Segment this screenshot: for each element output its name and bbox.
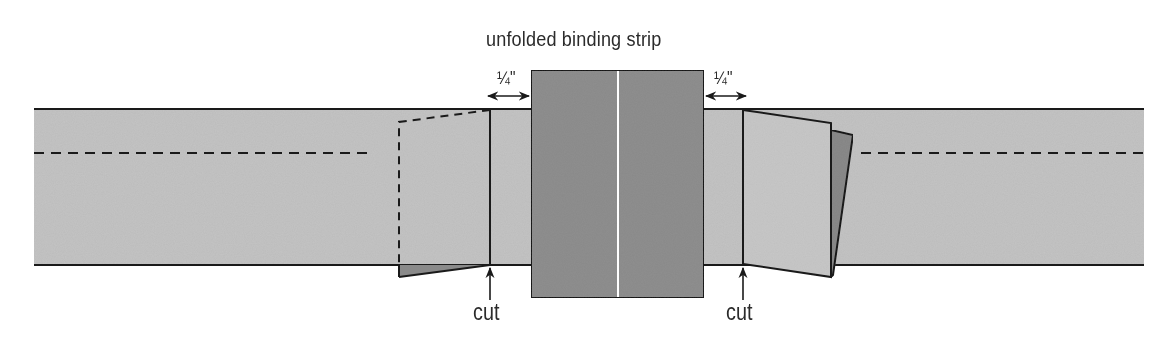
measurement-label-right: ¼" [714,68,732,89]
cut-label-right: cut [726,299,752,326]
binding-diagram [0,0,1172,341]
diagram-title: unfolded binding strip [486,27,661,51]
binding-strip [531,70,704,298]
measurement-label-left: ¼" [497,68,515,89]
right-flap [743,110,853,277]
cut-label-left: cut [473,299,499,326]
